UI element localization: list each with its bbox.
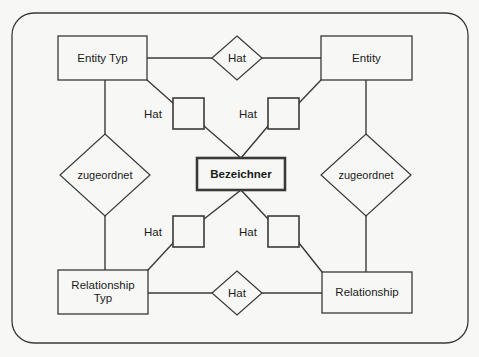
relationship-diamond-zugeordnet-left[interactable] (60, 134, 150, 216)
connector-bezeichner-to-sq-br (241, 190, 268, 219)
connector-sq-br-to-relationship (299, 243, 322, 272)
connector-entitytyp-to-sq-tl (147, 80, 173, 103)
er-diagram-svg (0, 0, 479, 357)
relationship-diamond-hat-top[interactable] (212, 36, 262, 80)
attribute-square-hat-square-bottom-right[interactable] (268, 216, 299, 247)
entity-box-relationship-typ[interactable] (58, 270, 148, 314)
er-diagram-canvas: Entity TypEntityBezeichnerRelationshipTy… (0, 0, 479, 357)
connector-sq-tl-to-bezeichner (204, 126, 241, 158)
connector-entity-to-sq-tr (299, 80, 321, 103)
connector-bezeichner-to-sq-bl (204, 190, 241, 219)
entity-box-bezeichner[interactable] (197, 158, 285, 190)
entity-box-relationship[interactable] (322, 272, 412, 313)
connector-sq-bl-to-relationshiptyp (148, 243, 173, 270)
entity-box-entity-typ[interactable] (58, 36, 147, 80)
relationship-diamond-zugeordnet-right[interactable] (321, 134, 411, 216)
entity-box-entity[interactable] (321, 36, 412, 80)
attribute-square-hat-square-top-right[interactable] (268, 98, 299, 129)
relationship-diamond-hat-bottom[interactable] (212, 271, 262, 315)
attribute-square-hat-square-bottom-left[interactable] (173, 216, 204, 247)
attribute-square-hat-square-top-left[interactable] (173, 98, 204, 129)
connector-sq-tr-to-bezeichner (241, 126, 268, 158)
